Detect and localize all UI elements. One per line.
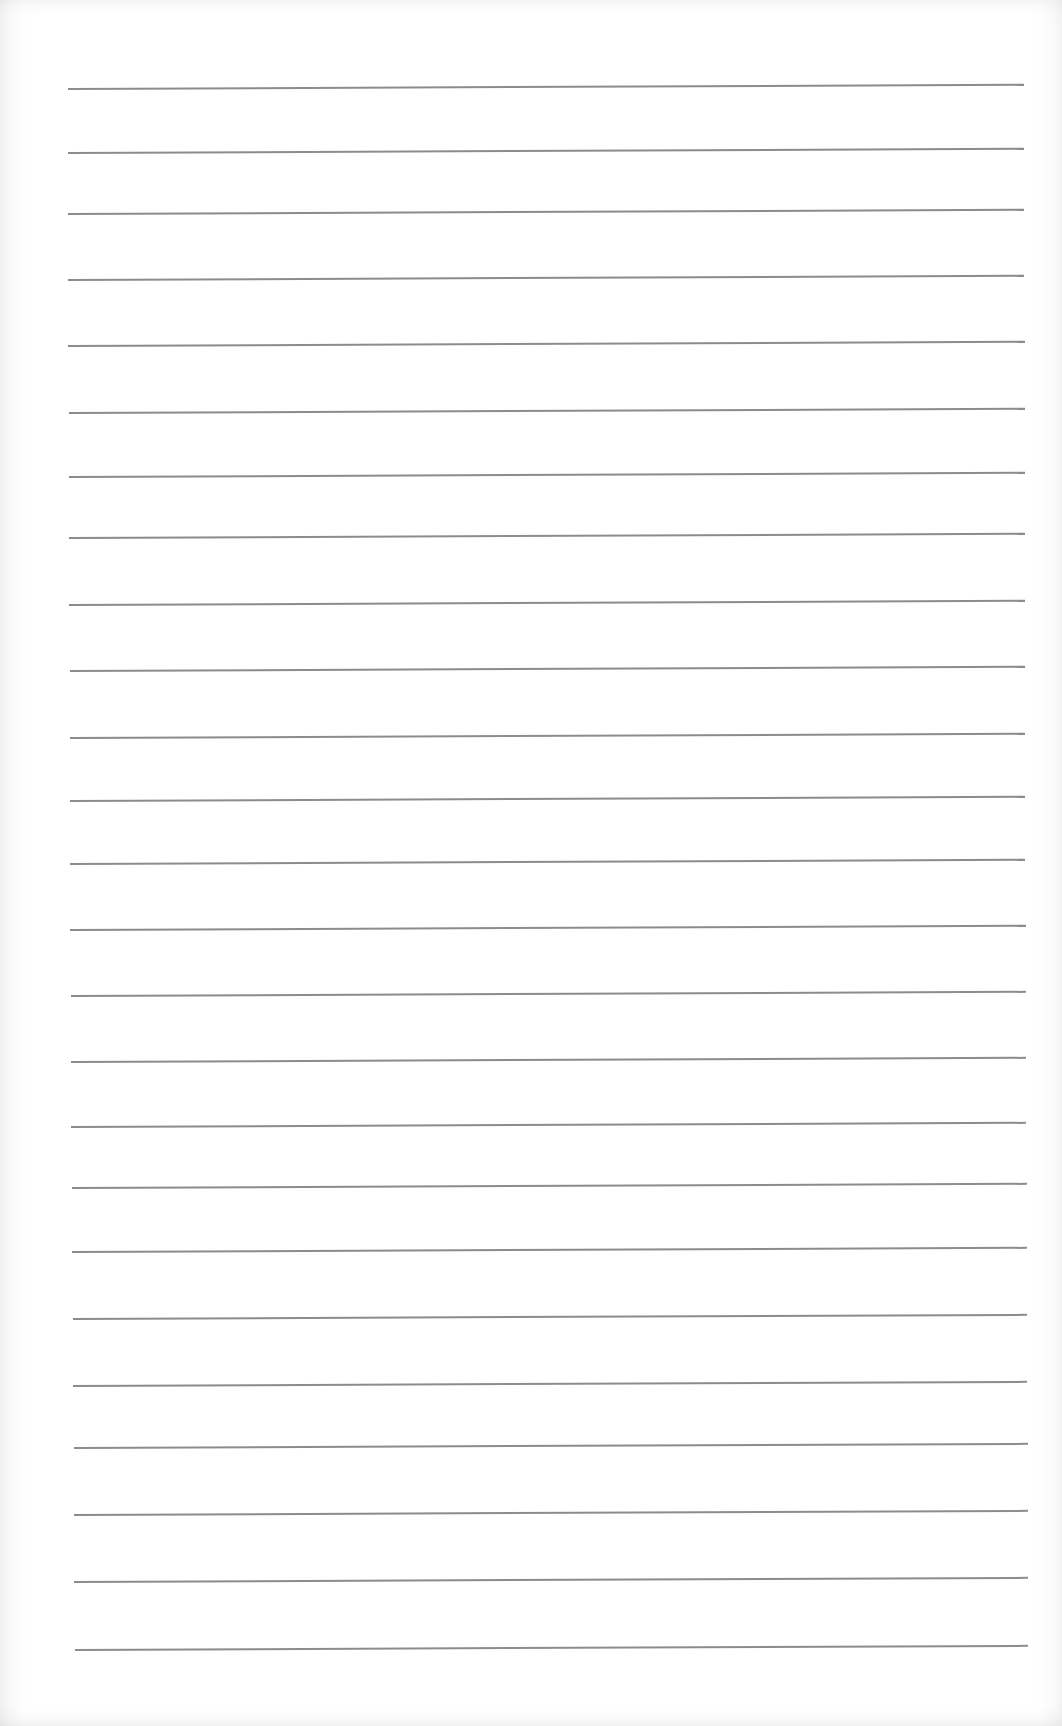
rule-line	[74, 1443, 1028, 1449]
rule-line	[69, 533, 1025, 539]
rule-line	[68, 341, 1025, 347]
rule-line	[68, 275, 1024, 281]
rule-line	[73, 1314, 1027, 1320]
rule-line	[68, 84, 1024, 90]
rule-line	[69, 600, 1025, 606]
rule-line	[70, 733, 1025, 739]
rule-line	[73, 1381, 1027, 1387]
rule-line	[70, 925, 1026, 931]
rule-line	[71, 1122, 1026, 1128]
rule-line	[75, 1645, 1028, 1651]
rule-line	[70, 859, 1025, 865]
rule-line	[69, 472, 1025, 478]
rule-line	[74, 1510, 1028, 1516]
rule-line	[72, 1183, 1027, 1189]
rule-line	[68, 209, 1024, 215]
rule-line	[71, 991, 1026, 997]
rule-line	[74, 1577, 1028, 1583]
rule-line	[70, 666, 1025, 672]
rule-line	[69, 408, 1025, 414]
rule-line	[72, 1247, 1027, 1253]
lined-paper-sheet	[0, 0, 1062, 1726]
rule-line	[70, 796, 1025, 802]
rule-line	[71, 1057, 1026, 1063]
rule-line	[68, 148, 1024, 154]
